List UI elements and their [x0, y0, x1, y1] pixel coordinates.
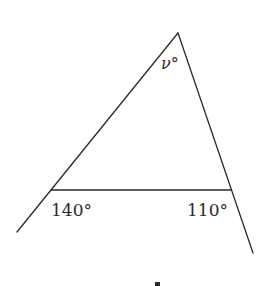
cropped-caption-mark [155, 282, 160, 286]
left-angle-label: 140° [51, 200, 92, 220]
apex-angle-label: ν° [161, 54, 179, 73]
left-side-line [17, 33, 178, 232]
right-angle-label: 110° [187, 200, 228, 220]
right-side-line [178, 33, 253, 253]
triangle-diagram: ν° 140° 110° [0, 0, 263, 286]
